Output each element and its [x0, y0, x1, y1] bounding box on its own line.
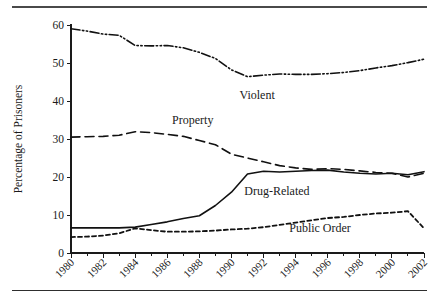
line-chart: 0102030405060198019821984198619881990199… [0, 0, 439, 301]
x-tick-label: 2000 [373, 256, 397, 280]
bottom-horizontal-rule [12, 290, 427, 291]
x-tick-label: 1990 [213, 256, 237, 280]
figure-container: 0102030405060198019821984198619881990199… [0, 0, 439, 301]
x-tick-label: 1984 [117, 256, 141, 280]
x-tick-label: 1986 [149, 256, 173, 280]
y-tick-label: 20 [53, 171, 65, 183]
series-label-drug-related: Drug-Related [244, 184, 309, 198]
series-line-violent [71, 29, 424, 77]
x-tick-label: 1996 [309, 256, 333, 280]
x-tick-label: 2002 [405, 256, 429, 280]
y-tick-label: 50 [53, 57, 65, 69]
top-horizontal-rule [12, 6, 427, 8]
y-tick-label: 0 [58, 247, 64, 259]
series-label-property: Property [172, 113, 213, 127]
x-tick-label: 1994 [277, 256, 301, 280]
y-tick-label: 10 [53, 209, 65, 221]
y-axis-title: Percentage of Prisoners [12, 84, 25, 193]
y-tick-label: 60 [53, 19, 65, 31]
series-line-drug-related [71, 170, 424, 228]
y-tick-label: 30 [53, 133, 65, 145]
series-label-public-order: Public Order [289, 221, 351, 235]
x-tick-label: 1982 [84, 256, 108, 280]
series-line-property [71, 132, 424, 177]
x-tick-label: 1998 [341, 256, 365, 280]
y-tick-label: 40 [53, 95, 65, 107]
chart-axes [71, 24, 424, 253]
x-tick-label: 1980 [52, 256, 76, 280]
x-tick-label: 1988 [181, 256, 205, 280]
x-tick-label: 1992 [245, 256, 269, 280]
series-line-public-order [71, 211, 424, 237]
series-label-violent: Violent [239, 88, 275, 102]
